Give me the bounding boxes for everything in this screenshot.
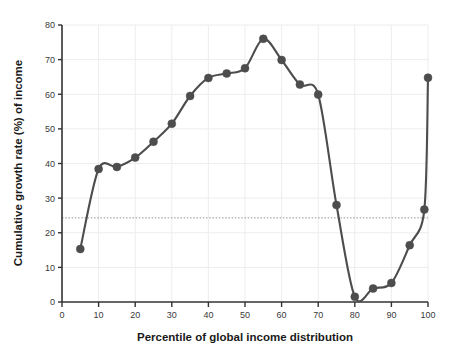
x-axis-tick-label: 50: [240, 310, 250, 320]
y-axis-tick-label: 80: [45, 20, 55, 30]
data-point: [333, 201, 341, 209]
data-point: [406, 241, 414, 249]
y-axis-tick-label: 70: [45, 55, 55, 65]
data-point: [113, 163, 121, 171]
data-point: [76, 245, 84, 253]
data-point: [369, 285, 377, 293]
chart-background: [0, 0, 465, 351]
elephant-curve-chart: 01020304050607080 0102030405060708090100…: [0, 0, 465, 351]
x-axis-tick-label: 10: [94, 310, 104, 320]
x-axis-tick-label: 30: [167, 310, 177, 320]
data-point: [314, 91, 322, 99]
data-point: [168, 120, 176, 128]
data-point: [131, 154, 139, 162]
x-axis-tick-label: 60: [277, 310, 287, 320]
x-axis-title: Percentile of global income distribution: [137, 331, 353, 343]
data-point: [351, 293, 359, 301]
data-point: [204, 74, 212, 82]
y-axis-tick-label: 60: [45, 90, 55, 100]
data-point: [387, 279, 395, 287]
x-axis-tick-label: 90: [386, 310, 396, 320]
y-axis-tick-label: 30: [45, 194, 55, 204]
data-point: [296, 81, 304, 89]
data-point: [186, 92, 194, 100]
x-axis-tick-label: 80: [350, 310, 360, 320]
data-point: [241, 64, 249, 72]
data-point: [424, 74, 432, 82]
data-point: [278, 56, 286, 64]
y-axis-title: Cumulative growth rate (%) of income: [12, 60, 24, 266]
data-point: [259, 35, 267, 43]
x-axis-tick-label: 0: [59, 310, 64, 320]
y-axis-tick-label: 50: [45, 124, 55, 134]
x-axis-tick-label: 40: [203, 310, 213, 320]
chart-figure: 01020304050607080 0102030405060708090100…: [0, 0, 465, 351]
y-axis-tick-label: 0: [50, 297, 55, 307]
x-axis-tick-label: 70: [313, 310, 323, 320]
data-point: [95, 165, 103, 173]
x-axis-tick-label: 100: [420, 310, 435, 320]
y-axis-tick-label: 10: [45, 263, 55, 273]
data-point: [420, 206, 428, 214]
data-point: [150, 138, 158, 146]
x-axis-tick-label: 20: [130, 310, 140, 320]
y-axis-tick-label: 20: [45, 228, 55, 238]
data-point: [223, 69, 231, 77]
y-axis-tick-label: 40: [45, 159, 55, 169]
